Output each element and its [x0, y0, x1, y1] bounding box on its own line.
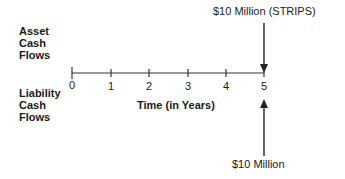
asset-label-line: Flows [19, 49, 50, 61]
asset-label-line: Cash [19, 37, 50, 49]
liability-flow-amount: $10 Million [232, 158, 285, 170]
liability-cash-flows-label: Liability Cash Flows [19, 87, 61, 123]
tick-label-4: 4 [220, 80, 232, 92]
liability-cash-flow-arrow-icon [260, 99, 268, 156]
asset-label-line: Asset [19, 25, 50, 37]
asset-cash-flow-arrow-icon [260, 23, 268, 73]
liability-label-line: Cash [19, 99, 61, 111]
tick-label-5: 5 [258, 80, 270, 92]
asset-cash-flows-label: Asset Cash Flows [19, 25, 50, 61]
tick-label-0: 0 [66, 79, 78, 91]
axis-title: Time (in Years) [137, 99, 215, 111]
liability-label-line: Flows [19, 111, 61, 123]
tick-label-3: 3 [182, 80, 194, 92]
tick-label-1: 1 [105, 80, 117, 92]
liability-label-line: Liability [19, 87, 61, 99]
tick-label-2: 2 [143, 80, 155, 92]
asset-flow-amount: $10 Million (STRIPS) [213, 5, 316, 17]
